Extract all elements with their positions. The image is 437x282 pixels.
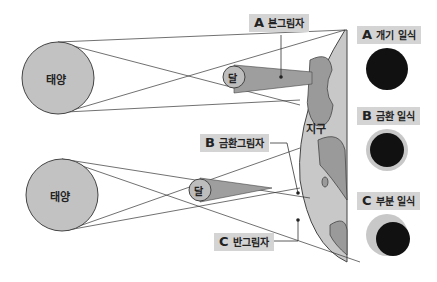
annular-eclipse-label: B금환 일식	[357, 107, 420, 125]
earth-label: 지구	[306, 120, 326, 136]
penumbra-text: 반그림자	[233, 237, 269, 248]
umbra-label: A본그림자	[249, 14, 309, 32]
moon-top-label: 달	[228, 70, 237, 85]
total-eclipse-text: 개기 일식	[376, 30, 415, 41]
partial-eclipse-label: C부분 일식	[357, 192, 420, 210]
sun-bottom-label: 태양	[50, 188, 70, 204]
annular-eclipse-letter: B	[362, 108, 372, 123]
annular-eclipse-text: 금환 일식	[376, 111, 415, 122]
umbra-letter: A	[254, 15, 264, 30]
antumbra-letter: B	[205, 135, 215, 150]
total-eclipse-icon	[366, 48, 408, 90]
partial-eclipse-letter: C	[362, 193, 372, 208]
earth	[300, 30, 347, 262]
penumbra-letter: C	[219, 234, 229, 249]
umbra-text: 본그림자	[268, 18, 304, 29]
sun-top-label: 태양	[46, 71, 66, 87]
total-eclipse-label: A개기 일식	[357, 26, 421, 44]
antumbra-text: 금환그림자	[219, 138, 264, 149]
penumbra-label: C반그림자	[214, 233, 274, 251]
moon-bottom-label: 달	[194, 183, 203, 198]
umbra-shadow	[234, 65, 312, 93]
antumbra-label: B금환그림자	[200, 134, 269, 152]
total-eclipse-letter: A	[362, 27, 372, 42]
partial-eclipse-text: 부분 일식	[376, 196, 415, 207]
